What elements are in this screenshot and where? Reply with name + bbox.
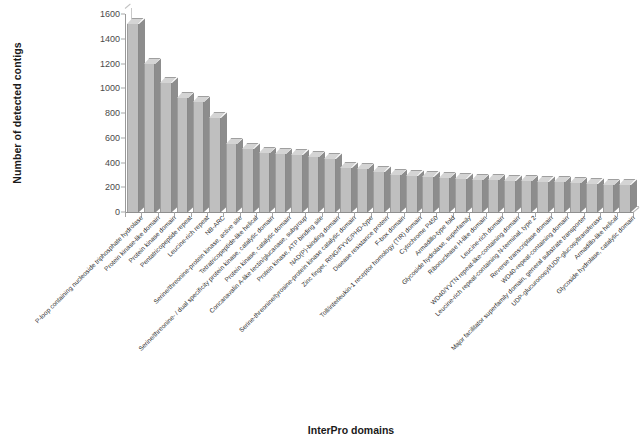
bar [472,180,483,212]
bar-front-face [422,177,433,212]
x-axis-line [125,212,633,213]
bar [193,102,204,212]
bar [308,157,319,212]
x-axis-title: InterPro domains [0,424,642,436]
bar-series [125,14,633,212]
bar [340,168,351,212]
bar-front-face [291,155,302,212]
bar [504,181,515,212]
y-axis-tick-label: 1200 [100,59,120,69]
y-axis-tick-label: 800 [105,108,120,118]
bar-front-face [209,118,220,212]
bar-front-face [160,83,171,212]
bar-front-face [554,182,565,212]
bar [422,177,433,212]
bar [259,153,270,212]
x-axis-category-label: P-loop containing nucleoside triphosphat… [34,214,144,324]
bar-front-face [488,180,499,212]
bar-front-face [455,179,466,212]
bar-front-face [504,181,515,212]
bar-front-face [439,178,450,212]
bar [570,183,581,212]
bar [521,181,532,212]
bar-front-face [603,185,614,212]
bar [488,180,499,212]
bar [275,154,286,212]
bar-front-face [144,64,155,213]
bar-side-face [631,180,637,212]
bar [373,172,384,212]
bar [209,118,220,212]
bar [291,155,302,212]
bar [177,98,188,212]
bar-front-face [619,185,630,212]
bar-front-face [373,172,384,212]
bar [144,64,155,213]
y-axis-tick-label: 200 [105,182,120,192]
bar [554,182,565,212]
y-axis-tick-label: 600 [105,133,120,143]
bar [357,169,368,212]
plot-area: 02004006008001000120014001600 [125,14,633,212]
bar-front-face [390,175,401,212]
bar-front-face [226,144,237,212]
bar-front-face [406,176,417,212]
bar-front-face [259,153,270,212]
y-axis-tick-label: 1000 [100,83,120,93]
y-axis-top-connector [125,4,131,9]
bar [603,185,614,212]
y-axis-tick-label: 400 [105,158,120,168]
bar [537,182,548,212]
y-axis-tick-label: 0 [115,207,120,217]
bar [324,159,335,212]
bar [127,24,138,212]
bar-front-face [308,157,319,212]
bar-front-face [177,98,188,212]
bar [586,184,597,212]
bar-front-face [127,24,138,212]
chart-figure: Number of detected contigs 0200400600800… [0,0,642,444]
bar-front-face [537,182,548,212]
bar [455,179,466,212]
bar-front-face [193,102,204,212]
y-axis-title: Number of detected contigs [11,8,23,218]
bar-front-face [472,180,483,212]
y-axis-tick-label: 1600 [100,9,120,19]
y-axis-tick-label: 1400 [100,34,120,44]
bar-front-face [340,168,351,212]
bar-front-face [357,169,368,212]
bar-front-face [570,183,581,212]
bar [242,149,253,212]
bar [390,175,401,212]
bar-front-face [586,184,597,212]
bar-front-face [242,149,253,212]
bar-front-face [324,159,335,212]
bar [160,83,171,212]
bar [619,185,630,212]
bar [226,144,237,212]
bar [406,176,417,212]
x-axis-category-labels: P-loop containing nucleoside triphosphat… [125,214,642,424]
bar-front-face [521,181,532,212]
bar-front-face [275,154,286,212]
bar [439,178,450,212]
